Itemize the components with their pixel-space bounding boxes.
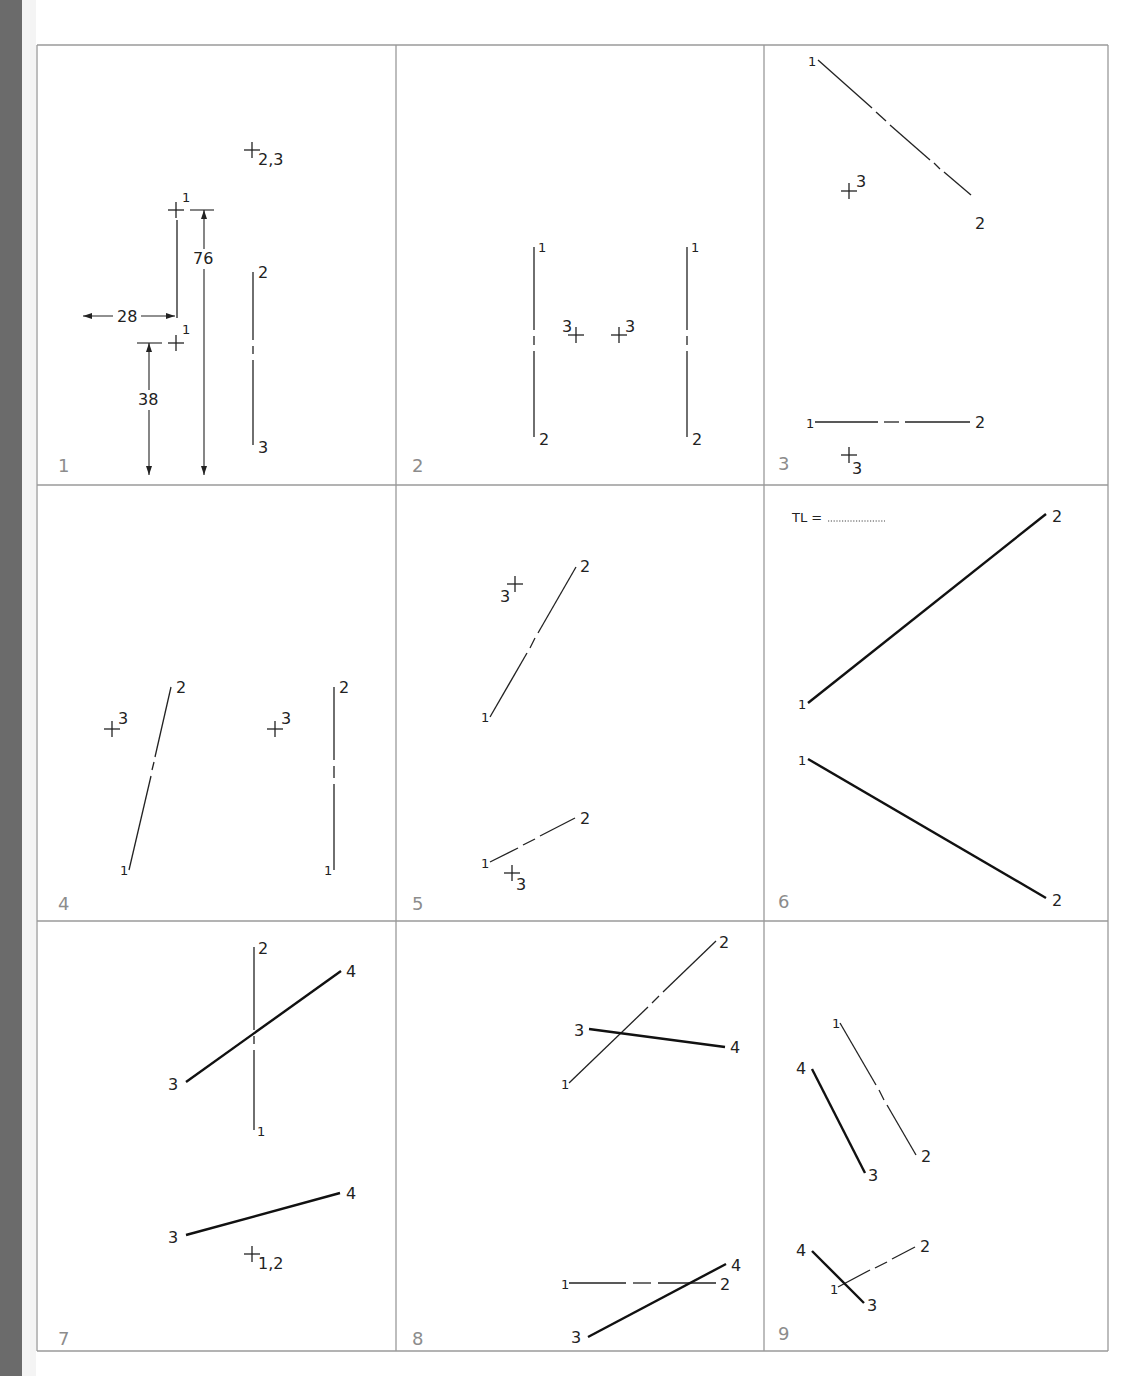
point-label: 1: [481, 710, 489, 725]
dimension-value: 28: [117, 307, 137, 326]
point-label: 3: [571, 1328, 581, 1347]
point-label: 2: [720, 1275, 730, 1294]
point-label: 1: [324, 863, 332, 878]
line-segment: [808, 514, 1046, 703]
panel-8: 234141238: [412, 933, 741, 1349]
line-segment: [152, 762, 154, 770]
point-label: 2: [1052, 507, 1062, 526]
line-segment: [523, 839, 535, 845]
line-segment: [875, 1262, 887, 1268]
line-segment: [588, 1264, 726, 1337]
point-label: 3: [856, 172, 866, 191]
line-segment: [186, 971, 341, 1082]
panel-number: 4: [58, 893, 69, 914]
line-segment: [812, 1069, 865, 1173]
line-segment: [530, 638, 535, 648]
point-label: 4: [346, 962, 356, 981]
arrowhead-down-icon: [201, 466, 207, 475]
panel-number: 1: [58, 455, 69, 476]
line-segment: [818, 60, 872, 108]
point-label: 1: [798, 753, 806, 768]
line-segment: [840, 1023, 876, 1085]
point-label: 2: [975, 413, 985, 432]
point-label: 3: [258, 438, 268, 457]
line-segment: [808, 759, 1046, 898]
point-label: 4: [730, 1038, 740, 1057]
line-segment: [879, 1090, 884, 1100]
line-segment: [155, 687, 171, 757]
point-label: 3: [574, 1021, 584, 1040]
dimension-76: 76: [190, 210, 215, 475]
point-label: 1,2: [258, 1254, 283, 1273]
point-label: 2: [339, 678, 349, 697]
point-label: 4: [346, 1184, 356, 1203]
point-label: 4: [796, 1059, 806, 1078]
point-label: 2: [921, 1147, 931, 1166]
panel-grid: [37, 45, 1108, 1351]
point-label: 2: [258, 263, 268, 282]
panel-number: 8: [412, 1328, 423, 1349]
point-label: 1: [832, 1016, 840, 1031]
arrowhead-up-icon: [146, 343, 152, 352]
point-label: 2: [719, 933, 729, 952]
point-label: 1: [481, 856, 489, 871]
point-label: 1: [808, 54, 816, 69]
panel-number: 5: [412, 893, 423, 914]
point-label: 3: [168, 1075, 178, 1094]
point-label: 3: [625, 317, 635, 336]
arrowhead-down-icon: [146, 466, 152, 475]
point-label: 1: [182, 322, 190, 337]
point-cross-icon: [168, 335, 184, 351]
point-label: 2: [258, 939, 268, 958]
point-label: 1: [561, 1077, 569, 1092]
point-label: 2: [1052, 891, 1062, 910]
line-segment: [129, 776, 151, 870]
panel-6: 2112TL =6: [778, 507, 1062, 912]
point-label: 1: [538, 240, 546, 255]
line-segment: [838, 1270, 870, 1287]
point-label: 1: [182, 190, 190, 205]
exercise-sheet: 2,31123762838112331221231233231231423121…: [0, 0, 1145, 1376]
panel-number: 2: [412, 455, 423, 476]
true-length-label: TL =: [791, 510, 822, 525]
point-label: 1: [561, 1277, 569, 1292]
point-label: 3: [852, 459, 862, 478]
panel-number: 9: [778, 1323, 789, 1344]
point-label: 2: [692, 430, 702, 449]
arrowhead-up-icon: [201, 210, 207, 219]
line-segment: [663, 941, 716, 992]
point-label: 2: [580, 557, 590, 576]
point-label: 3: [867, 1296, 877, 1315]
dimension-value: 76: [193, 249, 213, 268]
arrowhead-right-icon: [166, 313, 175, 319]
line-segment: [892, 1247, 915, 1259]
line-segment: [876, 112, 886, 121]
point-label: 1: [806, 416, 814, 431]
line-segment: [652, 996, 659, 1003]
point-label: 1: [120, 863, 128, 878]
line-segment: [890, 125, 930, 160]
dimension-38: 38: [136, 343, 162, 475]
line-segment: [490, 848, 518, 862]
point-label: 1: [691, 240, 699, 255]
point-label: 2: [975, 214, 985, 233]
line-segment: [538, 567, 576, 633]
line-segment: [490, 653, 527, 717]
point-label: 3: [500, 587, 510, 606]
panels: 2,31123762838112331221231233231231423121…: [58, 54, 1062, 1349]
point-label: 3: [118, 709, 128, 728]
point-label: 3: [868, 1166, 878, 1185]
panel-number: 3: [778, 453, 789, 474]
arrowhead-left-icon: [83, 313, 92, 319]
panel-9: 142324139: [778, 1016, 931, 1344]
point-label: 1: [798, 697, 806, 712]
point-label: 1: [257, 1124, 265, 1139]
panel-7: 2431431,27: [58, 939, 356, 1349]
dimension-28: 28: [83, 307, 175, 327]
point-label: 3: [562, 317, 572, 336]
line-segment: [887, 1105, 916, 1155]
point-label: 3: [168, 1228, 178, 1247]
point-label: 4: [731, 1256, 741, 1275]
point-label: 2: [176, 678, 186, 697]
panel-number: 7: [58, 1328, 69, 1349]
